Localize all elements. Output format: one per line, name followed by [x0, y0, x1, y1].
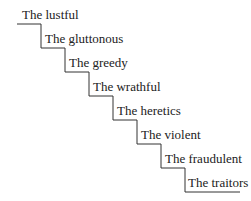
- step-label-3: The greedy: [69, 56, 128, 69]
- step-label-7: The fraudulent: [165, 152, 242, 165]
- staircase-line: [0, 0, 251, 201]
- step-label-8: The traitors: [188, 176, 248, 189]
- step-label-1: The lustful: [22, 8, 79, 21]
- step-label-6: The violent: [141, 128, 201, 141]
- step-label-5: The heretics: [117, 104, 181, 117]
- step-label-4: The wrathful: [93, 80, 161, 93]
- step-label-2: The gluttonous: [45, 32, 123, 45]
